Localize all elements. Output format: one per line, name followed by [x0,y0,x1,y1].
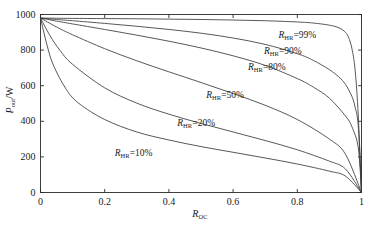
y-tick-label: 200 [0,152,36,162]
curve-label-10-percent: RHR=10% [115,149,153,159]
x-axis-title: ROC [192,209,207,219]
curve-label-99-percent: RHR=99% [278,31,316,41]
curve-r-hr-10- [41,18,362,192]
x-tick-label: 0.6 [227,197,240,207]
curve-r-hr-80- [41,18,362,192]
chart-figure: 02004006008001000 00.20.40.60.81 RHR=99%… [0,0,383,229]
y-tick-label: 1000 [0,10,36,20]
curve-r-hr-90- [41,18,362,192]
curve-r-hr-50- [41,18,362,192]
x-tick-label: 1 [359,197,364,207]
y-axis-title: Pout/W [5,87,15,114]
curve-label-50-percent: RHR=50% [206,92,244,102]
curve-r-hr-20- [41,18,362,192]
curve-label-80-percent: RHR=80% [248,63,286,73]
tick-marks [41,15,362,193]
y-tick-label: 800 [0,45,36,55]
axis-frame [41,15,362,193]
y-tick-label: 400 [0,116,36,126]
curve-label-20-percent: RHR=20% [177,119,215,129]
plot-canvas [0,0,383,229]
plot-border [41,15,362,193]
x-tick-label: 0.4 [163,197,176,207]
curve-group [41,18,362,192]
x-tick-label: 0 [38,197,43,207]
curve-label-90-percent: RHR=90% [264,47,302,57]
x-tick-label: 0.8 [291,197,304,207]
x-tick-label: 0.2 [98,197,111,207]
y-tick-label: 0 [0,188,36,198]
curve-r-hr-99- [41,18,362,192]
